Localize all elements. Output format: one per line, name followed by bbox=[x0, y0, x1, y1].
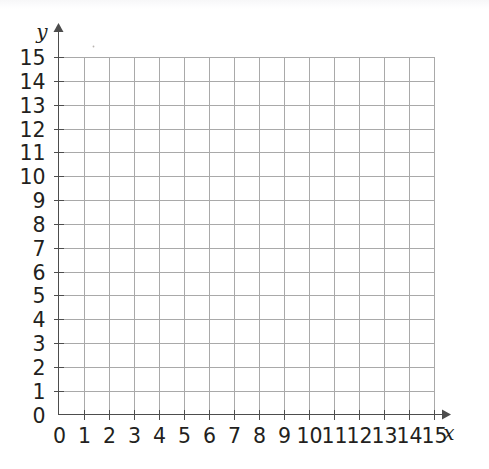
x-axis-arrowhead bbox=[442, 410, 451, 420]
y-tick-label: 14 bbox=[19, 70, 45, 94]
x-tick-label: 2 bbox=[103, 424, 116, 448]
y-tick-label: 15 bbox=[19, 46, 45, 70]
x-axis-label: x bbox=[443, 421, 454, 445]
y-tick-label: 3 bbox=[32, 332, 45, 356]
y-tick-label: 13 bbox=[19, 94, 45, 118]
y-tick-label: 0 bbox=[32, 404, 45, 428]
x-tick-label: 11 bbox=[321, 424, 347, 448]
coordinate-grid-figure: 0123456789101112131415 01234567891011121… bbox=[0, 0, 489, 469]
y-tick-label: 7 bbox=[32, 237, 45, 261]
gridlines-horizontal bbox=[59, 58, 434, 392]
x-tick-label: 8 bbox=[253, 424, 266, 448]
x-tick-label: 10 bbox=[296, 424, 322, 448]
y-tick-label: 2 bbox=[32, 356, 45, 380]
y-tick-label: 4 bbox=[32, 308, 45, 332]
x-tick-label: 12 bbox=[346, 424, 372, 448]
x-tick-label: 4 bbox=[153, 424, 166, 448]
gridlines-vertical bbox=[85, 57, 435, 415]
y-tick-label: 5 bbox=[32, 284, 45, 308]
x-axis-tick-labels: 0123456789101112131415 bbox=[53, 424, 448, 448]
y-tick-label: 6 bbox=[32, 261, 45, 285]
x-tick-label: 14 bbox=[396, 424, 422, 448]
y-tick-label: 1 bbox=[32, 380, 45, 404]
y-tick-label: 11 bbox=[19, 141, 45, 165]
x-tick-label: 9 bbox=[278, 424, 291, 448]
y-tick-label: 9 bbox=[32, 189, 45, 213]
y-tick-label: 8 bbox=[32, 213, 45, 237]
y-tick-label: 10 bbox=[19, 165, 45, 189]
x-tick-label: 3 bbox=[128, 424, 141, 448]
scan-speck-artifact bbox=[93, 46, 95, 48]
x-tick-label: 5 bbox=[178, 424, 191, 448]
y-axis-tick-labels: 0123456789101112131415 bbox=[19, 46, 45, 428]
y-axis-arrowhead bbox=[54, 23, 64, 32]
x-tick-label: 6 bbox=[203, 424, 216, 448]
x-tick-label: 13 bbox=[371, 424, 397, 448]
x-tick-label: 7 bbox=[228, 424, 241, 448]
y-tick-label: 12 bbox=[19, 118, 45, 142]
x-tick-label: 0 bbox=[53, 424, 66, 448]
grid-canvas: 0123456789101112131415 01234567891011121… bbox=[0, 0, 489, 469]
x-tick-label: 1 bbox=[78, 424, 91, 448]
y-axis-label: y bbox=[35, 20, 48, 44]
